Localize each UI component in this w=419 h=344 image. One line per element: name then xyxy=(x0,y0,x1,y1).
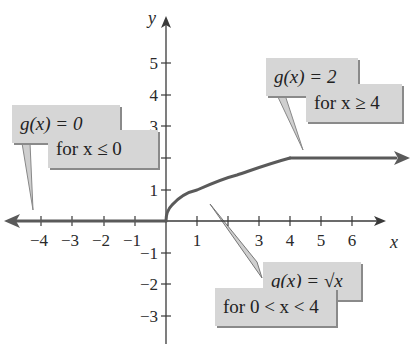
callout-x-le-zero-text: for x ≤ 0 xyxy=(56,138,122,159)
y-tick-labels: 5 4 3 2 1 −1 −2 −3 xyxy=(140,54,159,326)
svg-text:1: 1 xyxy=(193,231,202,250)
x-tick-labels: −4 −3 −2 −1 1 3 4 5 6 xyxy=(30,231,356,250)
callout-x-ge-four-text: for x ≥ 4 xyxy=(314,92,380,113)
callout-x-le-zero: for x ≤ 0 xyxy=(48,130,158,168)
svg-text:6: 6 xyxy=(348,231,357,250)
svg-text:−1: −1 xyxy=(123,231,141,250)
callout-pointer-top-right xyxy=(277,95,303,150)
svg-text:−1: −1 xyxy=(140,244,158,263)
svg-text:5: 5 xyxy=(317,231,326,250)
svg-text:4: 4 xyxy=(286,231,295,250)
callout-x-ge-four: for x ≥ 4 xyxy=(306,84,402,122)
segment-sqrt xyxy=(166,158,290,221)
svg-text:−2: −2 xyxy=(140,275,158,294)
callout-zero-lt-x-lt-four: for 0 < x < 4 xyxy=(215,288,336,326)
svg-text:5: 5 xyxy=(150,54,159,73)
svg-text:−4: −4 xyxy=(30,231,49,250)
svg-text:−2: −2 xyxy=(92,231,110,250)
callout-pointer-left xyxy=(22,143,33,210)
svg-text:−3: −3 xyxy=(61,231,79,250)
svg-text:−3: −3 xyxy=(140,307,158,326)
callout-zero-lt-x-lt-four-text: for 0 < x < 4 xyxy=(223,296,319,317)
x-axis-label: x xyxy=(389,232,398,252)
svg-text:1: 1 xyxy=(150,181,159,200)
y-axis-label: y xyxy=(146,8,156,28)
svg-text:3: 3 xyxy=(255,231,264,250)
svg-text:4: 4 xyxy=(150,86,159,105)
